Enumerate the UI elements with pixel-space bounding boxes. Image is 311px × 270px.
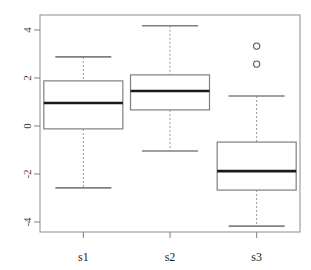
box-iqr: [131, 75, 210, 110]
y-axis-tick-label: 0: [21, 123, 33, 129]
x-axis-category-label: s2: [165, 250, 176, 264]
x-axis-category-label: s1: [78, 250, 89, 264]
boxplot-figure: -4-2024s1s2s3: [0, 0, 311, 270]
y-axis-tick-label: 4: [21, 27, 33, 33]
boxplot-canvas: -4-2024s1s2s3: [0, 0, 311, 270]
y-axis-tick-label: -4: [21, 217, 33, 227]
box-iqr: [217, 142, 296, 190]
outlier-point: [254, 61, 260, 67]
box-iqr: [44, 81, 123, 129]
y-axis-tick-label: -2: [21, 169, 33, 178]
x-axis-category-label: s3: [251, 250, 262, 264]
y-axis-tick-label: 2: [21, 75, 33, 81]
outlier-point: [254, 43, 260, 49]
